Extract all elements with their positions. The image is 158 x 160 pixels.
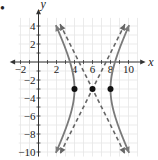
y-axis-label: y — [40, 0, 47, 11]
arrow-icon — [60, 147, 65, 154]
chart-canvas: −224681042−2−4−6−8−10xy — [0, 0, 158, 160]
point-center — [90, 86, 96, 92]
y-tick-label: −4 — [24, 92, 36, 104]
arrow-icon — [60, 24, 65, 31]
x-axis-label: x — [147, 55, 154, 69]
y-tick-label: −6 — [24, 110, 36, 122]
y-tick-label: −2 — [24, 74, 36, 86]
y-tick-label: 4 — [30, 20, 36, 32]
y-tick-label: −8 — [24, 128, 36, 140]
hyperbola-graph: • −224681042−2−4−6−8−10xy — [0, 0, 158, 160]
arrow-icon — [120, 147, 125, 154]
arrow-icon — [120, 24, 125, 31]
x-tick-label: 2 — [54, 63, 60, 75]
point-right-vertex — [108, 86, 114, 92]
x-axis-arrow-icon — [140, 60, 145, 65]
x-tick-label: 6 — [90, 63, 96, 75]
y-tick-label: 2 — [30, 38, 36, 50]
point-left-vertex — [72, 86, 78, 92]
y-tick-label: −10 — [18, 146, 36, 158]
x-tick-label: 10 — [123, 63, 135, 75]
